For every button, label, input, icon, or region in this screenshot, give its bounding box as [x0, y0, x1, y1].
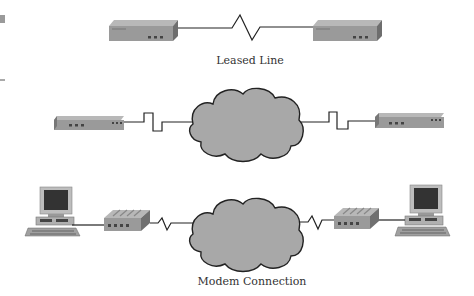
- network-cloud-icon: [190, 88, 303, 161]
- device-right-icon: [375, 113, 444, 128]
- router-left-icon: [109, 20, 178, 41]
- packet-network-section: [54, 88, 444, 161]
- cloud-to-modem-right-link: [300, 216, 334, 229]
- square-wave-right: [300, 112, 375, 129]
- modem-left-to-cloud-link: [150, 218, 193, 230]
- modem-left-icon: [104, 210, 150, 231]
- leased-line-label: Leased Line: [216, 54, 283, 67]
- leased-line-link: [178, 15, 313, 40]
- internet-cloud-icon: [190, 198, 303, 271]
- modem-connection-section: [25, 185, 450, 272]
- leased-line-section: [109, 15, 382, 41]
- router-right-icon: [313, 20, 382, 41]
- computer-right-icon: [395, 185, 450, 236]
- square-wave-left: [124, 113, 192, 131]
- computer-left-icon: [25, 187, 80, 236]
- edge-marker: [0, 15, 5, 23]
- modem-right-icon: [334, 208, 379, 229]
- modem-connection-label: Modem Connection: [198, 275, 307, 288]
- network-diagram: [0, 0, 474, 296]
- device-left-icon: [54, 116, 124, 130]
